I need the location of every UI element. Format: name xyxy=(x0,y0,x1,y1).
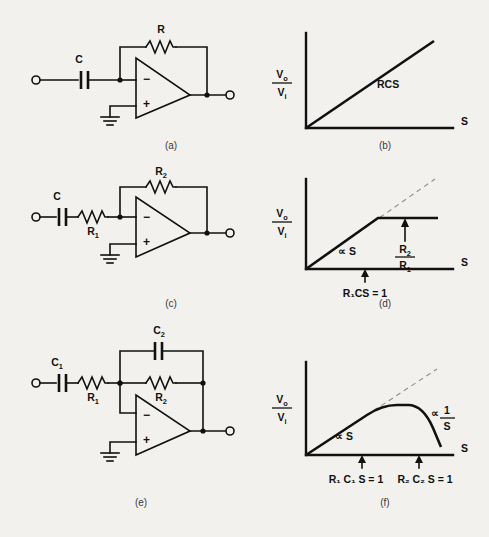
node-to-inverting-wire xyxy=(120,383,136,413)
input-terminal xyxy=(32,213,40,221)
panel-c-circuit: C R1 R2 − + xyxy=(0,165,245,310)
breakpoint-low-annotation: R₁ C₁ S = 1 xyxy=(329,473,384,485)
x-axis-label: S xyxy=(461,442,468,454)
feedback-resistor xyxy=(146,41,176,53)
circuit-c-svg: C R1 R2 − + xyxy=(0,165,245,310)
panel-a-circuit: C R − + xyxy=(0,0,245,145)
response-curve xyxy=(306,405,441,455)
plateau-gain-denominator: R1 xyxy=(399,259,411,274)
breakpoint-low-arrow-head xyxy=(358,455,366,463)
circuit-a-svg: C R − + xyxy=(0,0,245,145)
caption-c: (c) xyxy=(141,298,201,309)
noninverting-input-sign: + xyxy=(143,97,150,111)
caption-f: (f) xyxy=(355,497,415,508)
plot-f-svg: ∝ S ∝ 1 S R₁ C₁ S = 1 R₂ C₂ S = 1 Vo Vi … xyxy=(245,325,489,495)
output-terminal xyxy=(226,91,234,99)
breakpoint-arrow-head xyxy=(361,269,369,277)
input-terminal xyxy=(32,379,40,387)
feedback-resistor-label: R2 xyxy=(155,391,167,406)
y-axis-label-numerator: Vo xyxy=(276,207,288,222)
input-resistor xyxy=(78,377,108,389)
plot-b-svg: RCS Vo Vi S xyxy=(245,0,489,145)
input-resistor-label: R1 xyxy=(87,391,99,406)
slope-annotation: RCS xyxy=(377,78,399,90)
ground-wire xyxy=(110,442,136,453)
capacitor-label: C xyxy=(53,190,61,202)
plateau-gain-numerator: R2 xyxy=(399,243,411,258)
breakpoint-high-annotation: R₂ C₂ S = 1 xyxy=(397,473,452,485)
output-terminal xyxy=(226,427,234,435)
breakpoint-high-arrow-head xyxy=(415,455,423,463)
inverting-input-sign: − xyxy=(143,408,150,422)
noninverting-input-sign: + xyxy=(143,433,150,447)
ground-wire xyxy=(110,106,136,117)
circuit-e-svg: C1 R1 R2 C2 xyxy=(0,325,245,495)
feedback-resistor xyxy=(146,181,176,193)
panel-d-plot: R2 R1 ∝ S R₁CS = 1 Vo Vi S xyxy=(245,165,489,310)
fb-cap-right-wire xyxy=(162,351,203,383)
caption-b: (b) xyxy=(355,140,415,151)
x-axis-label: S xyxy=(461,256,468,268)
feedback-resistor-label: R2 xyxy=(155,165,167,180)
plateau-arrow-head xyxy=(401,218,409,227)
feedback-resistor xyxy=(146,377,176,389)
panel-b-plot: RCS Vo Vi S xyxy=(245,0,489,145)
rising-slope-annotation: ∝ S xyxy=(338,245,356,257)
plot-d-svg: R2 R1 ∝ S R₁CS = 1 Vo Vi S xyxy=(245,165,489,310)
y-axis-label-denominator: Vi xyxy=(277,225,286,240)
falling-slope-denominator: S xyxy=(443,420,450,432)
input-resistor xyxy=(78,211,108,223)
inverting-input-sign: − xyxy=(143,72,150,86)
rising-slope-annotation: ∝ S xyxy=(335,430,353,442)
inverting-input-sign: − xyxy=(143,210,150,224)
caption-e: (e) xyxy=(111,497,171,508)
output-terminal xyxy=(226,229,234,237)
input-capacitor-label: C1 xyxy=(51,356,63,371)
y-axis-label-denominator: Vi xyxy=(277,411,286,426)
caption-a: (a) xyxy=(141,140,201,151)
panel-e-circuit: C1 R1 R2 C2 xyxy=(0,325,245,495)
feedback-capacitor-label: C2 xyxy=(153,324,165,339)
caption-d: (d) xyxy=(355,298,415,309)
y-axis-label-numerator: Vo xyxy=(276,393,288,408)
y-axis-label-numerator: Vo xyxy=(276,68,288,83)
panel-f-plot: ∝ S ∝ 1 S R₁ C₁ S = 1 R₂ C₂ S = 1 Vo Vi … xyxy=(245,325,489,495)
ground-wire xyxy=(110,244,136,255)
input-terminal xyxy=(32,76,40,84)
y-axis-label-denominator: Vi xyxy=(277,86,286,101)
falling-slope-prop-symbol: ∝ xyxy=(431,407,439,419)
feedback-resistor-label: R xyxy=(157,23,165,35)
x-axis-label: S xyxy=(461,115,468,127)
response-curve xyxy=(306,41,434,128)
capacitor-label: C xyxy=(75,53,83,65)
figure-page: C R − + (a) xyxy=(0,0,489,537)
falling-slope-numerator: 1 xyxy=(444,404,450,416)
input-resistor-label: R1 xyxy=(87,225,99,240)
response-curve xyxy=(306,218,438,269)
noninverting-input-sign: + xyxy=(143,235,150,249)
